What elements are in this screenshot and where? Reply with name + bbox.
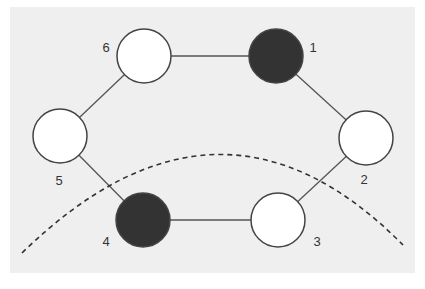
node-labels: 123456 — [55, 40, 367, 249]
node-label-5: 5 — [55, 173, 62, 188]
ring-graph: 123456 — [0, 0, 425, 289]
edges — [60, 56, 366, 220]
node-3 — [251, 193, 305, 247]
node-5 — [33, 109, 87, 163]
node-2 — [339, 111, 393, 165]
node-6 — [117, 29, 171, 83]
node-label-6: 6 — [102, 40, 109, 55]
node-4 — [116, 193, 170, 247]
node-label-1: 1 — [309, 40, 316, 55]
node-label-3: 3 — [313, 234, 320, 249]
node-label-4: 4 — [102, 234, 109, 249]
dashed-arc — [22, 154, 403, 253]
nodes — [33, 29, 393, 247]
node-label-2: 2 — [360, 172, 367, 187]
node-1 — [249, 29, 303, 83]
